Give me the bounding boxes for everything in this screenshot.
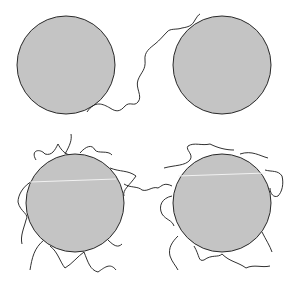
adsorbed-chain: [240, 153, 268, 158]
adsorbed-chain: [160, 196, 174, 226]
adsorbed-chain: [169, 236, 178, 270]
adsorbed-chain: [30, 240, 44, 270]
bottom-panel: [18, 134, 283, 272]
particle-top-right: [173, 16, 271, 114]
diagram-canvas: [0, 0, 291, 287]
top-panel: [17, 14, 271, 114]
particle-bottom-left: [26, 154, 124, 252]
interparticle-chain: [124, 184, 172, 190]
adsorbed-chain: [262, 232, 272, 252]
adsorbed-chain: [108, 240, 122, 246]
adsorbed-chain: [65, 134, 112, 155]
particle-top-left: [17, 16, 115, 114]
particle-bottom-right: [173, 154, 271, 252]
